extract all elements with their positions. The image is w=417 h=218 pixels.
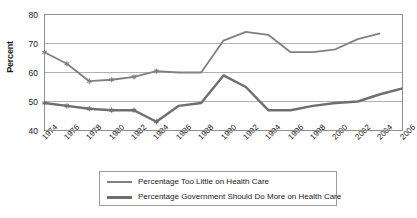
legend-label-govt-do-more: Percentage Government Should Do More on …	[138, 193, 341, 201]
legend-item-too-little: Percentage Too Little on Health Care	[107, 175, 269, 189]
legend: Percentage Too Little on Health Care Per…	[99, 171, 337, 206]
health-care-line-chart: Percent 8070605040 197419761978198019821…	[0, 0, 417, 218]
legend-swatch-govt-do-more	[107, 196, 132, 199]
series-lines	[42, 32, 402, 125]
legend-item-govt-do-more: Percentage Government Should Do More on …	[107, 190, 341, 204]
gridlines	[45, 44, 403, 102]
series-line	[45, 75, 403, 121]
legend-label-too-little: Percentage Too Little on Health Care	[138, 178, 269, 186]
legend-swatch-too-little	[107, 181, 132, 183]
series-line	[45, 32, 381, 81]
